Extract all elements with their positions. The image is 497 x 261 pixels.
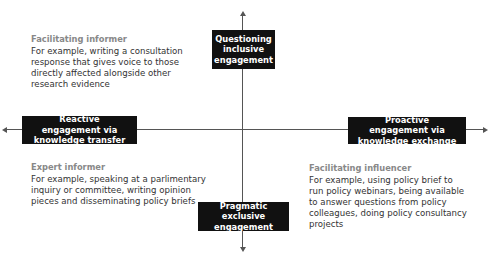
axis-label-left: Reactive engagement via knowledge transf…	[22, 116, 137, 144]
arrow-right-icon	[483, 127, 488, 133]
axis-label-top-text: Questioning inclusive engagement	[214, 34, 273, 66]
quadrant-text: For example, writing a consultation resp…	[31, 46, 191, 90]
quadrant-title: Expert informer	[31, 162, 206, 173]
axis-label-right-text: Proactive engagement via knowledge excha…	[355, 115, 459, 147]
arrow-down-icon	[240, 247, 246, 252]
quadrant-title: Facilitating influencer	[309, 163, 469, 174]
quadrant-bottom-left: Expert informer For example, speaking at…	[31, 162, 206, 207]
quadrant-bottom-right: Facilitating influencer For example, usi…	[309, 163, 469, 230]
axis-label-bottom-text: Pragmatic exclusive engagement	[202, 201, 285, 233]
arrow-left-icon	[2, 127, 7, 133]
quadrant-text: For example, speaking at a parlimentary …	[31, 174, 206, 207]
quadrant-top-left: Facilitating informer For example, writi…	[31, 34, 191, 90]
axis-label-left-text: Reactive engagement via knowledge transf…	[32, 114, 128, 146]
axis-label-top: Questioning inclusive engagement	[212, 30, 275, 69]
arrow-up-icon	[240, 11, 246, 16]
quadrant-text: For example, using policy brief to run p…	[309, 175, 469, 230]
axis-label-right: Proactive engagement via knowledge excha…	[348, 117, 466, 144]
axis-label-bottom: Pragmatic exclusive engagement	[198, 202, 289, 231]
quadrant-title: Facilitating informer	[31, 34, 191, 45]
